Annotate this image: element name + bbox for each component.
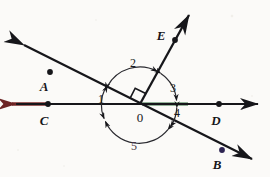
angle-label-4: 4 — [174, 107, 180, 119]
vertex-label-o: 0 — [137, 111, 144, 124]
point-label-d: D — [211, 114, 220, 127]
point-dot-b — [219, 147, 225, 153]
angle-label-5: 5 — [131, 140, 137, 152]
point-dot-c — [45, 101, 51, 107]
point-dot-d — [216, 101, 222, 107]
point-label-a: A — [40, 80, 49, 93]
point-label-c: C — [40, 114, 49, 127]
angle-label-1: 1 — [98, 93, 104, 105]
point-dot-a — [47, 69, 53, 75]
point-label-b: B — [213, 158, 222, 171]
geometry-figure: A E C D B 0 1 2 3 4 5 — [0, 0, 270, 177]
point-dot-e — [172, 37, 178, 43]
angle-label-2: 2 — [130, 57, 136, 69]
point-label-e: E — [157, 29, 166, 42]
angle-label-3: 3 — [170, 82, 176, 94]
